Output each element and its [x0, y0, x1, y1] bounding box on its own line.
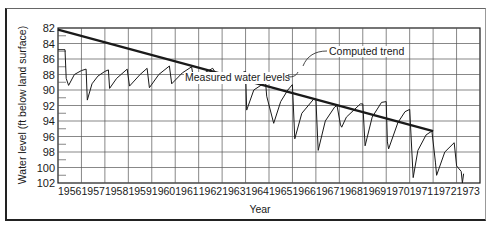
x-tick-label: 1969 [363, 185, 387, 197]
y-tick-label: 90 [43, 84, 55, 96]
x-tick-label: 1972 [433, 185, 457, 197]
y-tick-label: 88 [43, 69, 55, 81]
x-tick-label: 1970 [386, 185, 410, 197]
x-tick-label: 1957 [81, 185, 105, 197]
x-tick-label: 1971 [410, 185, 434, 197]
y-axis-ticks: 828486889092949698100102 [37, 22, 55, 189]
x-axis-ticks: 1956195719581959196019611962196319641965… [58, 185, 480, 197]
y-tick-label: 98 [43, 146, 55, 158]
x-tick-label: 1960 [152, 185, 176, 197]
x-tick-label: 1968 [339, 185, 363, 197]
annotations: Computed trendMeasured water levels [184, 45, 404, 84]
x-axis-label: Year [249, 203, 270, 215]
y-tick-label: 96 [43, 131, 55, 143]
y-tick-label: 94 [43, 115, 55, 127]
measured-water-levels-line [58, 50, 464, 183]
leader-arrow [303, 51, 327, 66]
x-tick-label: 1961 [175, 185, 199, 197]
x-tick-label: 1958 [105, 185, 129, 197]
y-tick-label: 92 [43, 100, 55, 112]
x-tick-label: 1967 [316, 185, 340, 197]
x-tick-label: 1964 [246, 185, 270, 197]
water-level-chart: 828486889092949698100102 195619571958195… [0, 0, 493, 230]
y-axis-label: Water level (ft below land surface) [16, 26, 28, 184]
x-tick-label: 1956 [58, 185, 82, 197]
y-tick-label: 86 [43, 53, 55, 65]
x-tick-label: 1963 [222, 185, 246, 197]
x-tick-label: 1962 [199, 185, 223, 197]
y-tick-label: 82 [43, 22, 55, 34]
measured-levels-label: Measured water levels [185, 71, 290, 83]
x-tick-label: 1959 [128, 185, 152, 197]
x-tick-label: 1973 [457, 185, 481, 197]
y-tick-label: 100 [37, 162, 55, 174]
y-tick-label: 102 [37, 177, 55, 189]
x-tick-label: 1965 [269, 185, 293, 197]
x-tick-label: 1966 [292, 185, 316, 197]
computed-trend-label: Computed trend [329, 45, 404, 57]
y-tick-label: 84 [43, 38, 55, 50]
